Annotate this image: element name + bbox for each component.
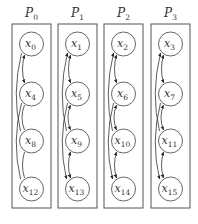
edge [161, 105, 164, 130]
node-x7: x7 [159, 82, 183, 106]
node-x3: x3 [159, 32, 183, 56]
node-x5: x5 [66, 82, 90, 106]
edge [162, 152, 164, 178]
node-x11: x11 [159, 129, 183, 153]
node-x12: x12 [20, 177, 44, 201]
process-2: P2x2x6x10x14 [104, 6, 143, 208]
process-0: P0x0x4x8x12 [12, 6, 51, 208]
node-x13: x13 [66, 177, 90, 201]
edge [69, 55, 71, 83]
edge [23, 152, 25, 178]
edge [68, 105, 71, 130]
edge [23, 55, 25, 83]
node-x6: x6 [112, 82, 136, 106]
edge [114, 105, 117, 130]
process-diagram: P0x0x4x8x12P1x1x5x9x13P2x2x6x10x14P3x3x7… [0, 0, 198, 224]
node-x15: x15 [159, 177, 183, 201]
node-x9: x9 [66, 129, 90, 153]
process-3: P3x3x7x11x15 [151, 6, 190, 208]
node-x2: x2 [112, 32, 136, 56]
edge [22, 105, 25, 130]
node-x14: x14 [112, 177, 136, 201]
node-x4: x4 [20, 82, 44, 106]
node-x10: x10 [112, 129, 136, 153]
process-1: P1x1x5x9x13 [58, 6, 97, 208]
node-x0: x0 [20, 32, 44, 56]
process-title: P2 [116, 6, 130, 22]
process-title: P3 [163, 6, 177, 22]
node-x8: x8 [20, 129, 44, 153]
edge [162, 55, 164, 83]
edge [115, 152, 117, 178]
edge [115, 55, 117, 83]
node-x1: x1 [66, 32, 90, 56]
edge [69, 152, 71, 178]
process-title: P0 [24, 6, 38, 22]
process-title: P1 [70, 6, 84, 22]
